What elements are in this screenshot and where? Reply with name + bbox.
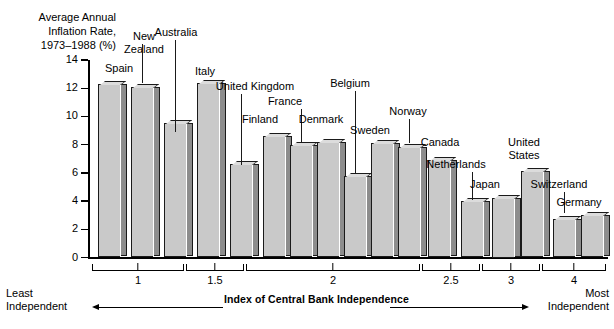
category-label-2-5: 2.5 (422, 274, 480, 286)
country-label-united-states: United States (500, 136, 548, 161)
bracket-2 (246, 264, 420, 272)
y-tick-label-12: 12 (52, 82, 78, 93)
bracket-mid-tick (573, 263, 574, 271)
country-label-finland: Finland (236, 113, 284, 126)
bracket-mid-tick (137, 263, 138, 271)
country-label-netherlands: Netherlands (421, 158, 491, 171)
bar-side-face (253, 164, 259, 256)
y-tick-10 (81, 116, 88, 118)
y-tick-label-14: 14 (52, 54, 78, 65)
bracket-cap-right (479, 264, 480, 271)
bracket-cap-right (539, 264, 540, 271)
leader-line (409, 119, 410, 143)
country-label-belgium: Belgium (325, 77, 375, 90)
bracket-1 (92, 264, 184, 272)
bar-spain (98, 84, 120, 258)
leader-line (142, 44, 143, 83)
y-tick-label-8: 8 (52, 139, 78, 150)
bar-side-face (604, 215, 610, 256)
y-axis-line (88, 60, 90, 258)
bar-side-face (187, 123, 193, 256)
right-arrow-line (390, 307, 522, 308)
category-label-1: 1 (92, 274, 184, 286)
bar-denmark (317, 142, 339, 258)
bracket-mid-tick (450, 263, 451, 271)
bar-germany (581, 215, 603, 257)
country-label-spain: Spain (96, 62, 142, 75)
bar-switzerland (553, 219, 575, 257)
country-label-denmark: Denmark (293, 113, 349, 126)
country-label-australia: Australia (143, 26, 209, 39)
left-arrow-head (92, 304, 99, 310)
y-tick-label-0: 0 (52, 252, 78, 263)
right-arrow-head (522, 304, 529, 310)
left-arrow-line (99, 307, 223, 308)
category-label-4: 4 (542, 274, 606, 286)
bar-japan (492, 198, 514, 257)
y-tick-14 (81, 59, 88, 61)
y-tick-label-2: 2 (52, 223, 78, 234)
bar-side-face (451, 160, 457, 256)
bar-side-face (220, 83, 226, 257)
y-tick-8 (81, 144, 88, 146)
bar-france (290, 145, 312, 258)
bracket-mid-tick (214, 263, 215, 271)
bar-sweden (371, 143, 393, 257)
bar-top-face (292, 142, 318, 146)
country-label-japan: Japan (464, 178, 506, 191)
y-tick-6 (81, 172, 88, 174)
country-label-germany: Germany (551, 196, 607, 209)
bracket-mid-tick (332, 263, 333, 271)
bar-united-kingdom (230, 164, 252, 257)
bracket-mid-tick (510, 263, 511, 271)
leader-line (175, 40, 176, 132)
bracket-1-5 (186, 264, 244, 272)
bar-finland (263, 136, 285, 257)
bar-side-face (154, 87, 160, 257)
category-label-1-5: 1.5 (186, 274, 244, 286)
y-axis-title: Average Annual Inflation Rate, 1973–1988… (6, 10, 116, 52)
chart-canvas: Average Annual Inflation Rate, 1973–1988… (0, 0, 614, 329)
leader-line (241, 94, 242, 165)
category-label-2: 2 (246, 274, 420, 286)
bar-norway (398, 147, 420, 257)
bar-new-zealand (131, 87, 153, 258)
country-label-switzerland: Switzerland (525, 178, 593, 191)
bracket-cap-right (183, 264, 184, 271)
bracket-4 (542, 264, 606, 272)
bracket-cap-right (243, 264, 244, 271)
bracket-cap-right (605, 264, 606, 271)
country-label-france: France (262, 95, 308, 108)
bar-australia (164, 123, 186, 257)
bar-top-face (346, 173, 372, 177)
country-label-united-kingdom: United Kingdom (212, 80, 298, 93)
y-tick-label-4: 4 (52, 195, 78, 206)
bar-netherlands (461, 201, 483, 257)
most-independent-label: Most Independent (531, 287, 609, 313)
y-tick-0 (81, 257, 88, 259)
country-label-sweden: Sweden (345, 124, 395, 137)
y-tick-12 (81, 88, 88, 90)
y-tick-4 (81, 200, 88, 202)
bar-side-face (484, 201, 490, 256)
least-independent-label: Least Independent (6, 287, 67, 313)
bracket-cap-right (419, 264, 420, 271)
bracket-3 (482, 264, 540, 272)
country-label-canada: Canada (415, 136, 465, 149)
bar-side-face (121, 84, 127, 257)
country-label-norway: Norway (383, 105, 433, 118)
bar-italy (197, 83, 219, 258)
bar-canada (428, 160, 450, 257)
bracket-2-5 (422, 264, 480, 272)
x-axis-title: Index of Central Bank Independence (224, 293, 409, 305)
y-tick-label-6: 6 (52, 167, 78, 178)
y-tick-label-10: 10 (52, 110, 78, 121)
bar-belgium (344, 176, 366, 258)
y-tick-2 (81, 229, 88, 231)
category-label-3: 3 (482, 274, 540, 286)
country-label-italy: Italy (185, 65, 225, 78)
